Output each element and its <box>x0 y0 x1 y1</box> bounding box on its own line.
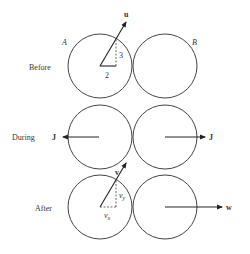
impulse-right-label: J <box>209 133 213 142</box>
collision-diagram: Before A B u 2 3 During J J After v vx v… <box>0 0 250 254</box>
component-vx-label: vx <box>104 211 111 221</box>
row-label-before: Before <box>29 63 51 72</box>
velocity-u-label: u <box>124 10 129 19</box>
component-vy-label: vy <box>119 191 126 201</box>
row-label-after: After <box>35 204 52 213</box>
ball-a-label: A <box>61 38 67 47</box>
component-y-label: 3 <box>119 51 123 60</box>
component-x-label: 2 <box>105 71 109 80</box>
ball-b-before <box>133 34 197 98</box>
row-label-during: During <box>12 133 35 142</box>
after-row: After v vx vy w <box>35 163 232 239</box>
during-row: During J J <box>12 105 213 169</box>
ball-b-label: B <box>192 38 197 47</box>
velocity-v-label: v <box>115 168 119 177</box>
impulse-left-label: J <box>52 133 56 142</box>
velocity-w-label: w <box>226 203 232 212</box>
before-row: Before A B u 2 3 <box>29 10 197 98</box>
